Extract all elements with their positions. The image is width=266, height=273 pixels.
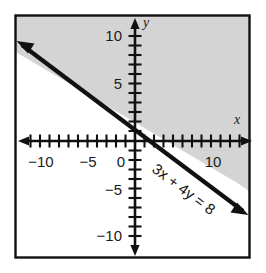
y-tick-label-neg10: −10 (97, 227, 122, 244)
x-tick-label-10: 10 (205, 153, 222, 170)
y-tick-label-neg5: −5 (105, 181, 122, 198)
x-tick-label-neg10: −10 (28, 153, 53, 170)
y-axis-letter-label: y (141, 15, 150, 30)
y-tick-label-10: 10 (105, 27, 122, 44)
coordinate-plane-svg: −10 −5 10 0 10 5 −5 −10 x y 3x + 4y = 8 (0, 0, 266, 273)
origin-label-zero: 0 (117, 153, 125, 170)
y-tick-label-5: 5 (114, 75, 122, 92)
graph-figure: −10 −5 10 0 10 5 −5 −10 x y 3x + 4y = 8 (0, 0, 266, 273)
x-axis-letter-label: x (233, 112, 241, 127)
x-tick-label-neg5: −5 (79, 153, 96, 170)
